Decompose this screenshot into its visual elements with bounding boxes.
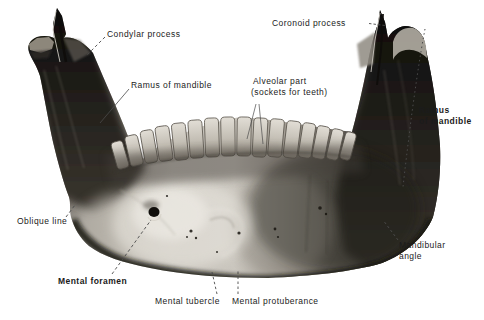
label-coronoid-process: Coronoid process [272, 18, 346, 29]
mandible-illustration [0, 0, 484, 320]
label-mental-protuberance: Mental protuberance [232, 296, 319, 307]
label-mental-foramen: Mental foramen [58, 276, 127, 287]
label-alveolar-part-line2: (sockets for teeth) [251, 87, 328, 98]
label-ramus-right-line2: of mandible [419, 116, 472, 127]
figure-mandible-diagram: Condylar process Coronoid process Ramus … [0, 0, 484, 320]
label-alveolar-part: Alveolar part (sockets for teeth) [251, 76, 328, 98]
label-mandibular-angle: Mandibular angle [399, 240, 446, 262]
label-ramus-right-line1: Ramus [419, 105, 472, 116]
label-mandibular-angle-line2: angle [399, 251, 446, 262]
label-condylar-process: Condylar process [107, 29, 180, 40]
mandible-bone [16, 0, 470, 280]
label-alveolar-part-line1: Alveolar part [253, 76, 328, 87]
mental-foramen-hole [149, 207, 160, 217]
label-ramus-of-mandible-left: Ramus of mandible [131, 80, 212, 91]
label-ramus-of-mandible-right: Ramus of mandible [419, 105, 472, 127]
label-oblique-line: Oblique line [17, 216, 67, 227]
label-mandibular-angle-line1: Mandibular [399, 240, 446, 251]
label-mental-tubercle: Mental tubercle [155, 296, 220, 307]
